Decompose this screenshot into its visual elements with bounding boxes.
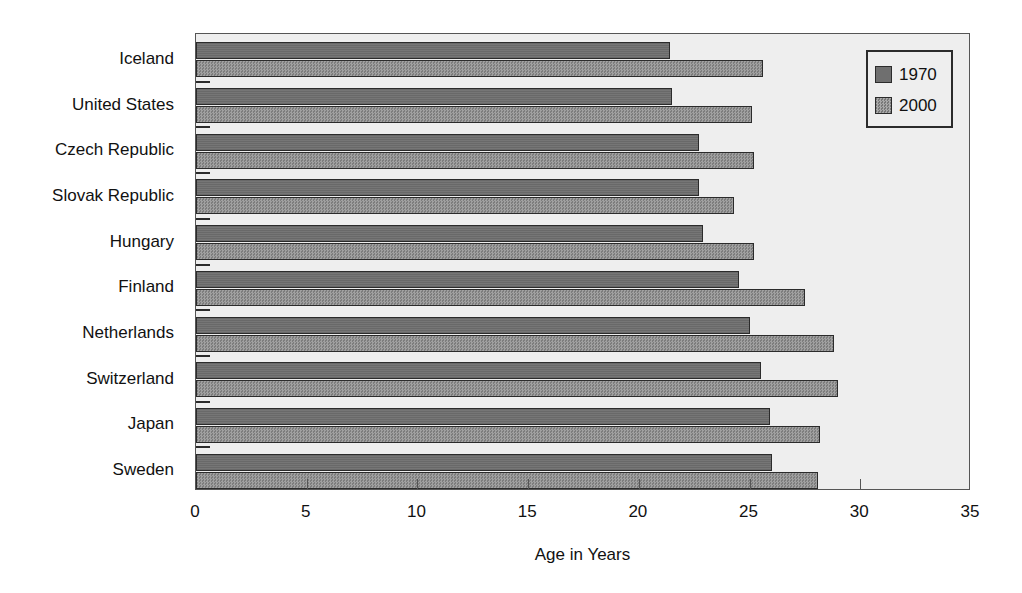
bar-japan-1970 — [196, 408, 770, 425]
series-1970-swatch — [875, 66, 892, 83]
legend-item-2000: 2000 — [875, 90, 945, 121]
x-axis-title: Age in Years — [195, 545, 970, 565]
y-axis-label-netherlands: Netherlands — [0, 324, 186, 341]
bar-sweden-2000 — [196, 472, 818, 489]
legend-label-2000: 2000 — [899, 97, 937, 114]
x-axis-tick-inner-5 — [307, 479, 308, 489]
bar-switzerland-2000 — [196, 380, 838, 397]
y-axis-tick — [196, 309, 210, 311]
bar-netherlands-1970 — [196, 317, 750, 334]
bar-czech-republic-2000 — [196, 152, 754, 169]
y-axis-tick — [196, 81, 210, 83]
y-axis-label-iceland: Iceland — [0, 50, 186, 67]
bar-united-states-2000 — [196, 106, 752, 123]
x-axis-tick-label-20: 20 — [608, 503, 668, 520]
bar-hungary-2000 — [196, 243, 754, 260]
bar-switzerland-1970 — [196, 362, 761, 379]
x-axis-tick-label-0: 0 — [165, 503, 225, 520]
bar-finland-1970 — [196, 271, 739, 288]
bar-slovak-republic-2000 — [196, 197, 734, 214]
bar-iceland-1970 — [196, 42, 670, 59]
y-axis-label-sweden: Sweden — [0, 461, 186, 478]
x-axis-tick-inner-15 — [528, 479, 529, 489]
y-axis-tick — [196, 401, 210, 403]
x-axis-tick-label-35: 35 — [940, 503, 1000, 520]
x-axis-tick-inner-20 — [639, 479, 640, 489]
legend-label-1970: 1970 — [899, 66, 937, 83]
bar-netherlands-2000 — [196, 335, 834, 352]
y-axis-tick — [196, 446, 210, 448]
y-axis-tick — [196, 218, 210, 220]
bar-hungary-1970 — [196, 225, 703, 242]
x-axis-tick-label-5: 5 — [276, 503, 336, 520]
x-axis-tick-label-15: 15 — [497, 503, 557, 520]
y-axis-label-finland: Finland — [0, 278, 186, 295]
x-axis-tick-label-30: 30 — [829, 503, 889, 520]
x-axis-tick-inner-10 — [417, 479, 418, 489]
x-axis-tick-label-10: 10 — [386, 503, 446, 520]
bar-japan-2000 — [196, 426, 820, 443]
y-axis-label-united-states: United States — [0, 96, 186, 113]
y-axis-tick — [196, 264, 210, 266]
bar-finland-2000 — [196, 289, 805, 306]
bar-united-states-1970 — [196, 88, 672, 105]
bar-sweden-1970 — [196, 454, 772, 471]
y-axis-label-hungary: Hungary — [0, 233, 186, 250]
bar-chart: IcelandUnited StatesCzech RepublicSlovak… — [0, 0, 1022, 593]
x-axis-tick-label-25: 25 — [719, 503, 779, 520]
legend: 1970 2000 — [866, 50, 953, 128]
bar-czech-republic-1970 — [196, 134, 699, 151]
legend-item-1970: 1970 — [875, 59, 945, 90]
bar-slovak-republic-1970 — [196, 179, 699, 196]
y-axis-label-japan: Japan — [0, 415, 186, 432]
x-axis-tick-inner-30 — [860, 479, 861, 489]
y-axis-labels: IcelandUnited StatesCzech RepublicSlovak… — [0, 0, 186, 593]
y-axis-tick — [196, 355, 210, 357]
plot-area — [195, 33, 970, 490]
y-axis-label-slovak-republic: Slovak Republic — [0, 187, 186, 204]
y-axis-tick — [196, 126, 210, 128]
y-axis-label-czech-republic: Czech Republic — [0, 141, 186, 158]
bar-iceland-2000 — [196, 60, 763, 77]
y-axis-tick — [196, 172, 210, 174]
x-axis-tick-inner-25 — [750, 479, 751, 489]
series-2000-swatch — [875, 97, 892, 114]
y-axis-label-switzerland: Switzerland — [0, 370, 186, 387]
